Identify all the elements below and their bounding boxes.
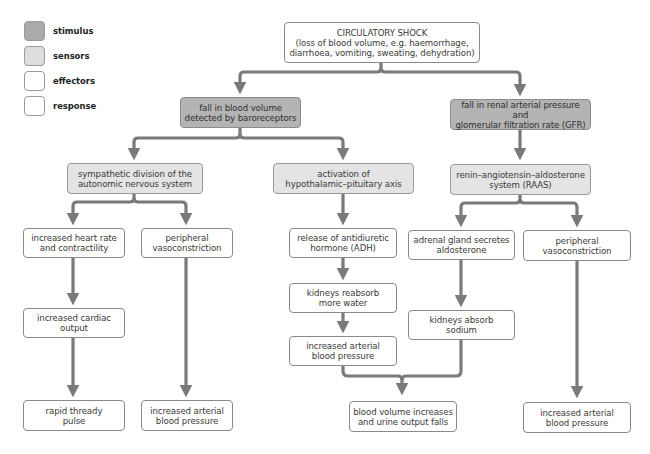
legend-stimulus: stimulus — [24, 21, 93, 41]
node-increased-bp-middle: increased arterial blood pressure — [289, 336, 397, 366]
node-increased-cardiac-output: increased cardiac output — [23, 308, 125, 338]
node-increased-bp-right: increased arterial blood pressure — [523, 402, 631, 433]
legend-swatch-effectors — [24, 71, 45, 91]
connector-arrows — [0, 0, 650, 454]
legend-response: response — [24, 96, 96, 116]
legend-swatch-response — [24, 96, 45, 116]
node-adrenal-aldosterone: adrenal gland secretes aldosterone — [408, 230, 515, 260]
legend-sensors: sensors — [24, 46, 89, 66]
node-blood-volume-increases: blood volume increases and urine output … — [349, 401, 457, 432]
node-kidneys-absorb-sodium: kidneys absorb sodium — [408, 310, 515, 340]
diagram-canvas: stimulus sensors effectors response CIRC… — [0, 0, 650, 454]
node-kidneys-reabsorb-water: kidneys reabsorb more water — [289, 283, 397, 313]
legend-label: effectors — [53, 76, 95, 86]
legend-swatch-sensors — [24, 46, 45, 66]
node-peripheral-vasoconstriction-left: peripheral vasoconstriction — [141, 228, 233, 258]
node-hypothalamic-pituitary: activation of hypothalamic–pituitary axi… — [273, 163, 414, 194]
legend-swatch-stimulus — [24, 21, 45, 41]
node-raas: renin–angiotensin–aldosterone system (RA… — [450, 164, 591, 195]
legend-label: sensors — [53, 51, 89, 61]
node-rapid-thready-pulse: rapid thready pulse — [23, 400, 125, 431]
node-increased-heart-rate: increased heart rate and contractility — [23, 228, 125, 258]
node-circulatory-shock: CIRCULATORY SHOCK (loss of blood volume,… — [284, 22, 480, 63]
node-fall-blood-volume: fall in blood volume detected by barorec… — [180, 97, 301, 128]
legend-label: stimulus — [53, 26, 93, 36]
legend-label: response — [53, 101, 96, 111]
node-peripheral-vasoconstriction-right: peripheral vasoconstriction — [523, 230, 631, 261]
node-release-adh: release of antidiuretic hormone (ADH) — [289, 228, 397, 258]
node-increased-bp-left: increased arterial blood pressure — [141, 400, 233, 431]
node-fall-renal-pressure: fall in renal arterial pressure and glom… — [450, 99, 591, 130]
legend-effectors: effectors — [24, 71, 95, 91]
node-sympathetic-division: sympathetic division of the autonomic ne… — [67, 163, 203, 194]
